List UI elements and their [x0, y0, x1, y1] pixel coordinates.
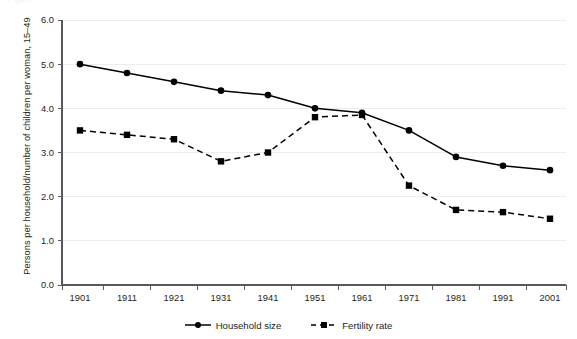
series-line-fertility-rate [80, 115, 550, 219]
data-point-marker [124, 132, 130, 138]
figure-container: Figure Persons per household/number of c… [0, 0, 577, 339]
data-point-marker [359, 112, 365, 118]
y-tick-label: 0.0 [41, 279, 54, 290]
data-point-marker [171, 136, 177, 142]
y-tick-label: 3.0 [41, 147, 54, 158]
data-point-marker [218, 158, 224, 164]
data-point-marker [171, 79, 178, 86]
chart-legend: Household size Fertility rate [0, 315, 577, 335]
x-tick-label: 1951 [305, 292, 326, 303]
y-axis-ticks-group: 0.01.02.03.04.05.06.0 [41, 14, 62, 290]
line-chart: 0.01.02.03.04.05.06.0 190119111921193119… [0, 0, 577, 315]
x-tick-label: 1901 [70, 292, 91, 303]
data-point-marker [77, 61, 84, 68]
x-tick-label: 1941 [258, 292, 279, 303]
legend-label-household-size: Household size [216, 320, 282, 331]
data-point-marker [547, 216, 553, 222]
legend-solid-circle-icon [185, 320, 211, 330]
data-point-marker [312, 105, 319, 112]
data-point-marker [453, 207, 459, 213]
y-tick-label: 6.0 [41, 14, 54, 25]
x-tick-label: 1981 [446, 292, 467, 303]
gridlines-group [62, 20, 566, 241]
x-tick-label: 1991 [493, 292, 514, 303]
data-point-marker [312, 114, 318, 120]
legend-label-fertility-rate: Fertility rate [342, 320, 392, 331]
y-tick-label: 5.0 [41, 59, 54, 70]
data-point-marker [124, 70, 131, 77]
legend-item-fertility-rate[interactable]: Fertility rate [311, 320, 392, 331]
y-tick-label: 1.0 [41, 235, 54, 246]
data-point-marker [218, 87, 225, 94]
data-point-marker [500, 209, 506, 215]
data-point-marker [453, 154, 460, 161]
x-axis-ticks-group [62, 285, 566, 290]
x-tick-label: 1921 [164, 292, 185, 303]
data-point-marker [265, 149, 271, 155]
data-series-group [77, 61, 554, 222]
x-tick-label: 1931 [211, 292, 232, 303]
y-tick-label: 4.0 [41, 103, 54, 114]
y-tick-label: 2.0 [41, 191, 54, 202]
x-tick-label: 1961 [352, 292, 373, 303]
data-point-marker [406, 127, 413, 134]
legend-dashed-square-icon [311, 320, 337, 330]
data-point-marker [406, 182, 412, 188]
data-point-marker [500, 162, 507, 169]
data-point-marker [77, 127, 83, 133]
x-tick-label: 1911 [117, 292, 137, 303]
data-point-marker [547, 167, 554, 174]
x-tick-label: 2001 [540, 292, 561, 303]
data-point-marker [265, 92, 272, 99]
x-tick-label: 1971 [399, 292, 420, 303]
legend-item-household-size[interactable]: Household size [185, 320, 282, 331]
x-axis-labels-group: 1901191119211931194119511961197119811991… [70, 292, 561, 303]
